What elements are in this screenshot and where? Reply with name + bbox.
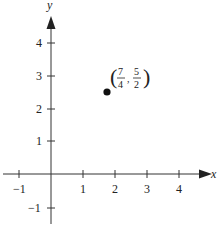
y-tick-label: 2 xyxy=(36,102,42,116)
y-tick-label: −1 xyxy=(28,201,41,215)
y-tick-label: 1 xyxy=(36,134,42,148)
close-paren: ) xyxy=(143,64,150,89)
comma: , xyxy=(127,73,130,84)
point-label: ( 7 4 , 5 2 ) xyxy=(110,64,150,90)
y-numerator: 5 xyxy=(134,66,139,77)
x-axis-label: x xyxy=(210,167,217,181)
x-numerator: 7 xyxy=(118,66,123,77)
y-tick-label: 4 xyxy=(36,36,42,50)
y-axis-arrow-icon xyxy=(47,16,56,29)
x-tick-label: 2 xyxy=(112,182,118,196)
y-tick-label: 3 xyxy=(36,69,42,83)
x-tick-label: 3 xyxy=(144,182,150,196)
x-tick-label: −1 xyxy=(13,182,26,196)
x-denominator: 4 xyxy=(118,79,123,90)
plotted-point xyxy=(103,88,110,95)
y-denominator: 2 xyxy=(134,79,139,90)
x-tick-label: 1 xyxy=(80,182,86,196)
x-tick-label: 4 xyxy=(176,182,182,196)
y-axis-label: y xyxy=(46,0,53,12)
open-paren: ( xyxy=(110,64,117,89)
coordinate-plane: x y −1 1 2 3 4 4 3 2 1 −1 ( 7 4 , 5 2 ) xyxy=(0,0,218,247)
